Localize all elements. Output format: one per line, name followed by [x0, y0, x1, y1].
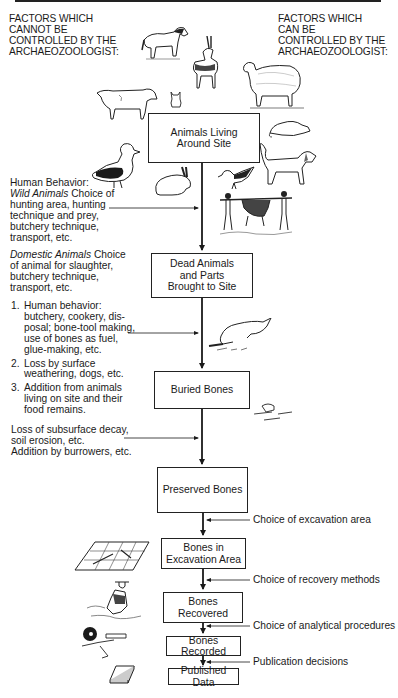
box-preserved-bones: Preserved Bones [157, 467, 248, 513]
antelope-icon [187, 34, 227, 94]
site-factor-number: 1. [11, 301, 20, 312]
site-factor-item: 1.Human behavior: butchery, cookery, dis… [11, 301, 141, 356]
book-icon [108, 664, 136, 684]
burrowing-animal-bones-icon [252, 402, 294, 424]
site-factor-number: 3. [11, 383, 20, 394]
excavation-grid-icon [73, 540, 151, 572]
note-burial-factors: Loss of subsurface decay, soil erosion, … [11, 425, 141, 458]
note-publication-decisions: Publication decisions [253, 656, 348, 667]
excavator-icon [85, 578, 143, 622]
note-choice-of-excavation-area: Choice of excavation area [253, 514, 371, 525]
note-choice-of-analytical-procedures: Choice of analytical procedures [253, 620, 395, 631]
box-bones-in-excavation-area: Bones in Excavation Area [161, 538, 246, 569]
note-domestic-animals: Domestic Animals Choice of animal for sl… [10, 250, 135, 294]
note-human-behavior: Human Behavior: Wild Animals Choice of h… [10, 178, 130, 243]
sheep-icon [238, 56, 310, 110]
site-factor-text: Human behavior: butchery, cookery, dis- … [24, 300, 135, 355]
note-choice-of-recovery-methods: Choice of recovery methods [253, 574, 380, 585]
note-domestic-animals-label: Domestic Animals [10, 249, 91, 260]
box-animals-living-around-site: Animals Living Around Site [148, 113, 260, 163]
site-factors-list: 1.Human behavior: butchery, cookery, dis… [11, 301, 141, 419]
site-factor-text: Loss by surface weathering, dogs, etc. [24, 358, 124, 380]
dog-icon [258, 140, 320, 196]
site-factor-number: 2. [11, 359, 20, 370]
rat-icon [268, 117, 314, 139]
box-bones-recovered: Bones Recovered [163, 592, 243, 623]
bird-icon [218, 165, 258, 193]
box-bones-recorded: Bones Recorded [166, 636, 241, 656]
site-factor-item: 3.Addition from animals living on site a… [11, 383, 141, 416]
note-wild-animals-label: Wild Animals [10, 188, 68, 199]
box-buried-bones: Buried Bones [154, 371, 250, 409]
site-factor-item: 2.Loss by surface weathering, dogs, etc. [11, 359, 141, 381]
dog-chewing-bone-icon [207, 318, 273, 354]
box-dead-animals-brought-to-site: Dead Animals and Parts Brought to Site [151, 253, 253, 298]
note-human-behavior-title: Human Behavior: [10, 177, 89, 188]
box-published-data: Published Data [168, 668, 239, 685]
analyst-icon [78, 624, 130, 660]
rabbit-icon [152, 165, 194, 199]
cat-icon [168, 89, 184, 109]
site-factor-text: Addition from animals living on site and… [24, 382, 123, 415]
horse-icon [140, 22, 190, 72]
hunters-carrying-animal-icon [218, 190, 294, 238]
